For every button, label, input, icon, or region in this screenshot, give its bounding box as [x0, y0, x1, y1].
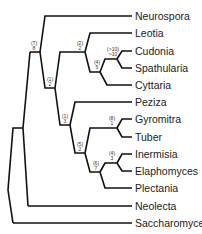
branch-c-to-e: [55, 88, 70, 125]
taxon-elaphomyces: Elaphomyces: [135, 165, 198, 177]
branch-cudonia: [117, 51, 132, 59]
branch-c-to-d: [55, 52, 85, 88]
taxon-spathularia: Spathularia: [135, 62, 188, 74]
phylogenetic-tree: Neurospora Leotia Cudonia Spathularia Cy…: [0, 0, 202, 234]
branch-elaphomyces: [117, 163, 132, 171]
taxon-peziza: Peziza: [135, 96, 167, 108]
support-bottom: 2: [79, 45, 82, 51]
branch-inermisia: [117, 154, 132, 163]
branch-plectania: [100, 172, 132, 188]
support-inner-clade: (1) 2: [47, 76, 53, 87]
taxon-neolecta: Neolecta: [135, 200, 177, 212]
support-pezizales-inner: (5) 2: [77, 141, 83, 152]
taxon-neurospora: Neurospora: [135, 10, 190, 22]
support-inermisia-elaphomyces: (4) 3: [109, 150, 115, 161]
support-gyromitra-tuber: (8) 1: [109, 115, 115, 126]
taxon-plectania: Plectania: [135, 182, 178, 194]
branch-gyromitra: [117, 119, 132, 128]
support-leotiomycetes: (2) 2: [77, 40, 83, 51]
branch-cyttaria: [100, 72, 132, 85]
support-neurospora-clade: (7) 8: [31, 40, 37, 51]
branch-tuber: [117, 128, 132, 137]
branch-node-a: [23, 52, 30, 206]
taxon-cyttaria: Cyttaria: [135, 79, 171, 91]
taxon-leotia: Leotia: [135, 27, 164, 39]
branch-j-to-k: [100, 163, 117, 172]
support-pezizales: (1) 3: [62, 113, 68, 124]
branch-f-to-g: [100, 59, 117, 72]
taxon-tuber: Tuber: [135, 131, 163, 143]
taxon-inermisia: Inermisia: [135, 148, 178, 160]
support-cudonia-spathularia: (>10) >10: [107, 46, 119, 57]
support-bottom: 2: [49, 81, 52, 87]
branch-peziza: [70, 102, 132, 125]
taxon-saccharomyces: Saccharomyces: [135, 217, 202, 229]
support-bottom: 8: [33, 45, 36, 51]
branch-spathularia: [117, 59, 132, 68]
branch-b-to-c: [40, 52, 55, 88]
branch-root: [8, 128, 23, 223]
support-bottom: 3: [64, 118, 67, 124]
taxon-cudonia: Cudonia: [135, 45, 174, 57]
taxon-gyromitra: Gyromitra: [135, 113, 181, 125]
support-cudonia-cyttaria: (4) 5: [94, 59, 100, 70]
support-bottom: 7: [95, 165, 98, 171]
support-bottom: 5: [96, 64, 99, 70]
support-bottom: 2: [79, 146, 82, 152]
support-plectania-clade: (6) 7: [93, 160, 99, 171]
branch-e-to-h: [70, 125, 85, 153]
support-bottom: >10: [109, 51, 118, 57]
support-bottom: 1: [111, 120, 114, 126]
support-bottom: 3: [111, 155, 114, 161]
